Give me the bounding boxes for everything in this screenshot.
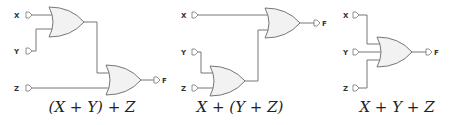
output-label-f: F	[162, 77, 167, 85]
input-pin-x	[26, 12, 32, 18]
input-pin-z	[192, 85, 198, 91]
input-pin-y	[192, 49, 198, 55]
diagram-2: X Y Z F	[180, 8, 327, 96]
input-label-z: Z	[343, 85, 348, 93]
output-label-f: F	[322, 20, 327, 28]
input-label-y: Y	[342, 49, 349, 57]
wire	[32, 29, 52, 51]
input-label-x: X	[181, 12, 187, 20]
input-pin-z	[26, 85, 32, 91]
input-label-z: Z	[181, 85, 186, 93]
input-label-y: Y	[13, 48, 20, 56]
caption-diagram-1: (X + Y) + Z	[49, 98, 136, 116]
wire	[359, 15, 380, 44]
output-label-f: F	[434, 49, 439, 57]
input-pin-z	[353, 85, 359, 91]
caption-diagram-3: X + Y + Z	[359, 98, 434, 116]
or-gate	[265, 8, 300, 38]
or-gate	[377, 37, 412, 67]
output-pin-f	[154, 77, 160, 83]
or-gate	[49, 7, 84, 37]
input-pin-y	[353, 49, 359, 55]
caption-diagram-2: X + (Y + Z)	[197, 98, 284, 116]
input-pin-y	[26, 48, 32, 54]
wire	[84, 22, 109, 73]
input-pin-x	[192, 12, 198, 18]
diagram-3: X Y Z F	[342, 12, 439, 93]
input-label-z: Z	[14, 85, 19, 93]
input-label-y: Y	[180, 49, 187, 57]
diagram-1: X Y Z F	[13, 7, 167, 95]
output-pin-f	[314, 20, 320, 26]
or-gate	[210, 66, 245, 96]
wire	[245, 30, 268, 81]
input-pin-x	[353, 12, 359, 18]
input-label-x: X	[14, 12, 20, 20]
or-gate	[106, 65, 141, 95]
output-pin-f	[426, 49, 432, 55]
input-label-x: X	[343, 12, 349, 20]
wire	[198, 52, 213, 73]
wire	[359, 60, 380, 88]
